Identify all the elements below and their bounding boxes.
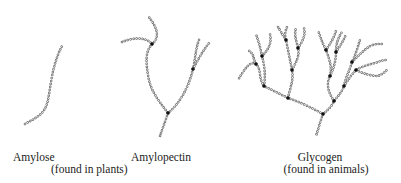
branch-point [332, 99, 336, 103]
branch-point [262, 84, 266, 88]
amylose-label: Amylose [13, 151, 55, 164]
branch-point [334, 50, 338, 54]
branch-point [342, 84, 346, 88]
branch-point [321, 112, 325, 116]
branch-point [284, 38, 288, 42]
plants-note: (found in plants) [51, 163, 128, 176]
branch-point [286, 96, 290, 100]
amylose-structure [25, 46, 62, 124]
branch-point [254, 62, 258, 66]
amylopectin-structure [122, 16, 210, 136]
branch-point [150, 42, 154, 46]
branch-point [328, 74, 332, 78]
animals-note: (found in animals) [276, 163, 376, 176]
branch-point [260, 54, 264, 58]
branch-point [354, 68, 358, 72]
branch-point [166, 111, 170, 115]
glycogen-structure [238, 27, 388, 136]
amylopectin-label: Amylopectin [131, 151, 191, 164]
branch-point [290, 68, 294, 72]
branch-point [350, 60, 354, 64]
branch-point [191, 67, 195, 71]
branch-point [324, 48, 328, 52]
branch-point [296, 46, 300, 50]
